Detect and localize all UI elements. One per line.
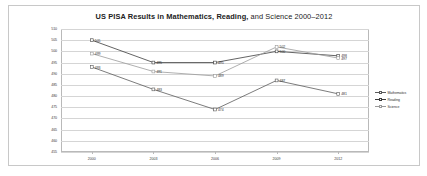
series-layer	[61, 29, 369, 152]
legend-key-icon	[375, 92, 386, 93]
y-axis-tick-label: 465	[51, 128, 57, 132]
x-axis-tick	[92, 152, 93, 154]
data-point-label: 483	[156, 88, 162, 92]
x-axis-tick	[277, 152, 278, 154]
data-point-marker	[337, 92, 340, 95]
y-axis-tick-label: 505	[51, 38, 57, 42]
x-axis-tick-label: 2012	[334, 157, 342, 161]
x-axis: 20002003200620092012	[61, 154, 369, 166]
y-axis-tick-label: 480	[51, 94, 57, 98]
series-line-mathematics	[92, 67, 338, 109]
chart-title: US PISA Results in Mathematics, Reading,…	[9, 12, 419, 21]
x-axis-tick-label: 2009	[273, 157, 281, 161]
data-point-marker	[152, 88, 155, 91]
data-point-label: 502	[280, 45, 286, 49]
y-axis-tick-label: 510	[51, 27, 57, 31]
legend-item-reading[interactable]: Reading	[375, 96, 427, 103]
data-point-label: 489	[218, 74, 224, 78]
x-axis-tick	[153, 152, 154, 154]
legend-label: Science	[388, 105, 400, 109]
data-point-label: 497	[341, 57, 347, 61]
data-point-label: 487	[280, 79, 286, 83]
data-point-marker	[152, 61, 155, 64]
y-axis: 510505500495490485480475470465460455	[9, 29, 59, 152]
data-point-marker	[214, 75, 217, 78]
data-point-label: 474	[218, 108, 224, 112]
data-point-marker	[90, 66, 93, 69]
chart-title-bold: US PISA Results in Mathematics, Reading,	[96, 12, 249, 21]
data-point-marker	[214, 108, 217, 111]
y-axis-tick-label: 495	[51, 61, 57, 65]
y-axis-tick-label: 500	[51, 49, 57, 53]
legend-label: Mathematics	[388, 91, 407, 95]
y-axis-tick-label: 455	[51, 150, 57, 154]
y-axis-tick-label: 470	[51, 116, 57, 120]
chart-container: US PISA Results in Mathematics, Reading,…	[8, 5, 420, 166]
plot-area: 4934834744874815054954955004984994914895…	[61, 29, 369, 152]
x-axis-tick	[338, 152, 339, 154]
data-point-marker	[337, 57, 340, 60]
data-point-marker	[152, 70, 155, 73]
legend-key-icon	[375, 99, 386, 100]
data-point-marker	[275, 50, 278, 53]
legend-key-icon	[375, 106, 386, 107]
y-axis-tick-label: 460	[51, 139, 57, 143]
data-point-label: 493	[95, 66, 101, 70]
data-point-marker	[214, 61, 217, 64]
data-point-label: 495	[218, 61, 224, 65]
y-axis-tick-label: 490	[51, 72, 57, 76]
x-axis-tick-label: 2003	[149, 157, 157, 161]
data-point-label: 481	[341, 92, 347, 96]
chart-title-normal: and Science 2000–2012	[248, 12, 332, 21]
legend-item-mathematics[interactable]: Mathematics	[375, 89, 427, 96]
data-point-label: 495	[156, 61, 162, 65]
data-point-label: 505	[95, 39, 101, 43]
data-point-label: 500	[280, 50, 286, 54]
data-point-marker	[90, 52, 93, 55]
x-axis-tick-label: 2006	[211, 157, 219, 161]
legend-item-science[interactable]: Science	[375, 103, 427, 110]
x-axis-tick-label: 2000	[88, 157, 96, 161]
y-axis-tick-label: 485	[51, 83, 57, 87]
data-point-marker	[275, 79, 278, 82]
legend-label: Reading	[388, 98, 400, 102]
x-axis-tick	[215, 152, 216, 154]
data-point-marker	[90, 39, 93, 42]
data-point-marker	[275, 45, 278, 48]
data-point-label: 499	[95, 52, 101, 56]
data-point-label: 491	[156, 70, 162, 74]
chart-legend: MathematicsReadingScience	[375, 89, 427, 110]
y-axis-tick-label: 475	[51, 105, 57, 109]
